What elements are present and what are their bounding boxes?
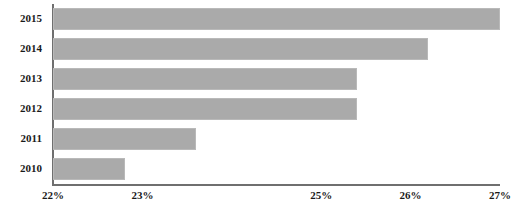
bar-2010[interactable]	[53, 158, 125, 180]
bar-row	[53, 38, 500, 60]
category-label-2013: 2013	[20, 73, 42, 84]
category-axis-labels: 201520142013201220112010	[0, 4, 48, 184]
value-tick-23: 23%	[131, 190, 153, 201]
bar-series	[53, 4, 500, 184]
bar-2013[interactable]	[53, 68, 357, 90]
bar-2012[interactable]	[53, 98, 357, 120]
value-tick-22: 22%	[42, 190, 64, 201]
bar-2011[interactable]	[53, 128, 196, 150]
value-axis-line	[52, 184, 500, 186]
value-tick-25: 25%	[310, 190, 332, 201]
bar-2015[interactable]	[53, 8, 500, 30]
category-label-2015: 2015	[20, 13, 42, 24]
bar-chart: 201520142013201220112010 22%23%25%26%27%	[0, 0, 528, 213]
bar-row	[53, 68, 500, 90]
bar-2014[interactable]	[53, 38, 428, 60]
value-tick-26: 26%	[400, 190, 422, 201]
bar-row	[53, 128, 500, 150]
value-axis-tick-labels: 22%23%25%26%27%	[0, 190, 528, 208]
bar-row	[53, 158, 500, 180]
category-label-2010: 2010	[20, 163, 42, 174]
category-label-2012: 2012	[20, 103, 42, 114]
value-tick-27: 27%	[489, 190, 511, 201]
category-label-2014: 2014	[20, 43, 42, 54]
bar-row	[53, 8, 500, 30]
bar-row	[53, 98, 500, 120]
category-label-2011: 2011	[21, 133, 42, 144]
